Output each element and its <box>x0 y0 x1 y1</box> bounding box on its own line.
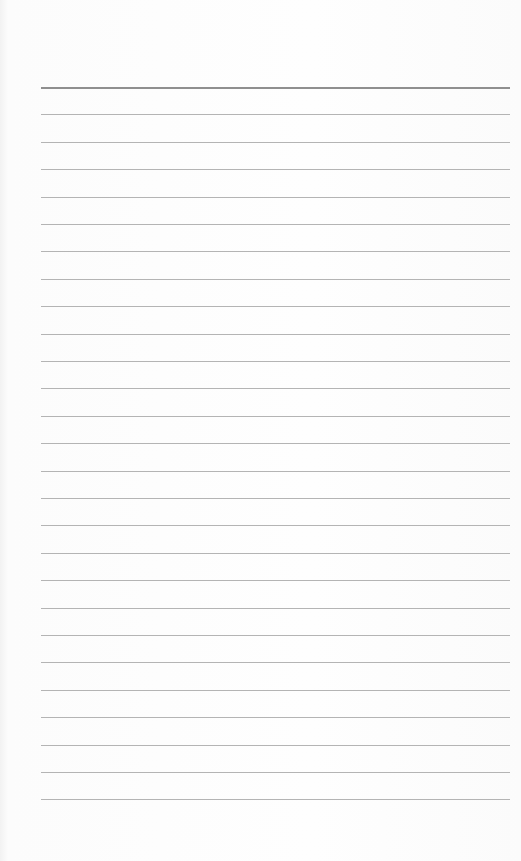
rule-line <box>41 690 510 691</box>
rule-line <box>41 635 510 636</box>
rule-line <box>41 197 510 198</box>
rule-line <box>41 416 510 417</box>
rule-line <box>41 553 510 554</box>
rule-line <box>41 580 510 581</box>
rule-line <box>41 169 510 170</box>
rule-line <box>41 334 510 335</box>
rule-line <box>41 279 510 280</box>
rule-line <box>41 361 510 362</box>
rule-line <box>41 388 510 389</box>
rule-line <box>41 224 510 225</box>
rule-line <box>41 114 510 115</box>
rule-line <box>41 662 510 663</box>
rule-line <box>41 443 510 444</box>
rule-line <box>41 142 510 143</box>
rule-line <box>41 471 510 472</box>
rule-line <box>41 306 510 307</box>
rule-line <box>41 525 510 526</box>
header-rule-line <box>41 87 510 89</box>
rule-line <box>41 717 510 718</box>
rule-line <box>41 251 510 252</box>
rule-line <box>41 608 510 609</box>
rule-line <box>41 772 510 773</box>
rule-line <box>41 745 510 746</box>
lined-paper <box>0 0 521 861</box>
rule-line <box>41 799 510 800</box>
rule-line <box>41 498 510 499</box>
